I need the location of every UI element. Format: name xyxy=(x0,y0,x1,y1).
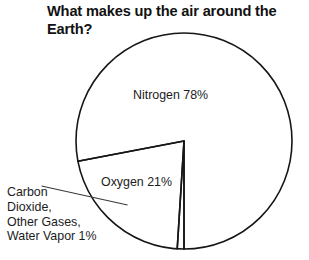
slice-label-oxygen: Oxygen 21% xyxy=(101,175,172,190)
slice-label-nitrogen: Nitrogen 78% xyxy=(133,88,208,103)
slice-oxygen xyxy=(177,141,184,249)
slice-label-trace-gases: Carbon Dioxide, Other Gases, Water Vapor… xyxy=(7,185,97,244)
pie-chart-figure: What makes up the air around the Earth? … xyxy=(0,0,309,260)
